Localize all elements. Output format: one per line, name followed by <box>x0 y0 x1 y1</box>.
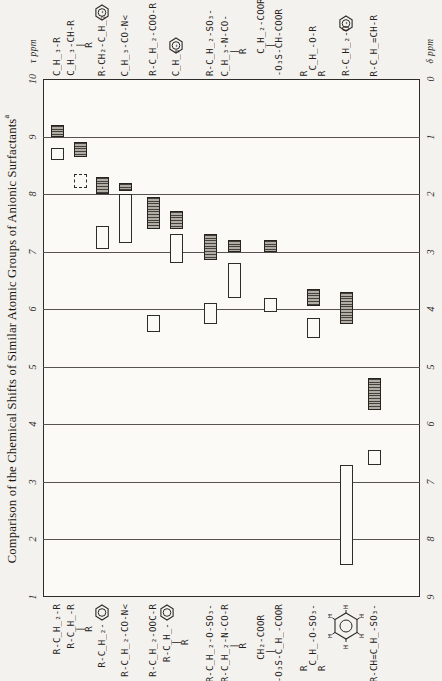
range-box-open-group-11 <box>340 465 353 566</box>
tau-axis-unit-label: τ ppm <box>28 39 38 63</box>
gridline-tau-2 <box>43 539 420 540</box>
top-formula-group-4: C̲H̲₃-CO-N< <box>121 15 130 76</box>
range-box-open-group-5 <box>147 315 160 332</box>
gridline-tau-6 <box>43 309 420 310</box>
delta-axis-unit-label: δ ppm <box>425 38 435 63</box>
gridline-tau-9 <box>43 137 420 138</box>
tau-tick-label-7: 7 <box>27 249 38 254</box>
range-box-hatched-group-6 <box>170 211 183 228</box>
svg-text:H: H <box>328 634 334 638</box>
range-box-hatched-group-7 <box>204 234 217 260</box>
top-formula-group-2: C̲H̲₃-CH-R | R <box>67 20 94 76</box>
top-formula-group-12: R-C̲H̲=CH-R <box>370 15 379 76</box>
delta-tick-label-6: 6 <box>425 422 436 427</box>
range-box-hatched-group-10 <box>307 289 320 306</box>
benzene-ring-icon-bottom-3 <box>94 604 110 621</box>
range-box-hatched-group-8 <box>228 240 241 252</box>
range-box-hatched-group-9 <box>264 240 277 252</box>
benzene-ring-icon-top-6 <box>168 37 184 54</box>
range-box-hatched-group-4 <box>119 183 132 192</box>
gridline-tau-4 <box>43 424 420 425</box>
gridline-tau-5 <box>43 367 420 368</box>
top-formula-group-5: R-C̲H̲₂-COO-R <box>149 3 158 76</box>
benzene-ring-icon-bottom-6 <box>159 604 175 621</box>
tau-tick-label-1: 1 <box>27 595 38 600</box>
benzene-ring-icon-top-3 <box>94 4 110 21</box>
range-box-hatched-group-12 <box>368 378 381 410</box>
svg-text:H: H <box>342 645 350 649</box>
delta-tick-label-2: 2 <box>425 192 436 197</box>
top-formula-group-1: C̲H̲₃-R <box>53 37 62 76</box>
range-box-open-group-3 <box>96 226 109 249</box>
range-box-hatched-group-5 <box>147 197 160 229</box>
top-formula-group-9: C̲H̲₂-COOR | -O₃S-CH-COOR <box>257 0 284 76</box>
delta-tick-label-4: 4 <box>425 307 436 312</box>
range-box-hatched-group-1 <box>51 125 64 137</box>
range-box-open-group-9 <box>264 298 277 312</box>
chart-frame <box>43 79 420 597</box>
tau-tick-label-5: 5 <box>27 364 38 369</box>
range-box-open-group-7 <box>204 303 217 323</box>
top-formula-group-7: R-C̲H̲₂-SO₃- <box>206 9 215 76</box>
delta-tick-label-9: 9 <box>425 595 436 600</box>
delta-tick-label-7: 7 <box>425 479 436 484</box>
bottom-formula-group-8: R-C̲H̲₂-N-CO-R | R <box>221 604 248 681</box>
range-box-hatched-group-3 <box>96 177 109 194</box>
svg-text:H: H <box>342 605 350 609</box>
tau-tick-label-4: 4 <box>27 422 38 427</box>
svg-text:H: H <box>358 614 364 618</box>
svg-text:H: H <box>358 634 364 638</box>
gridline-tau-3 <box>43 482 420 483</box>
delta-tick-label-8: 8 <box>425 537 436 542</box>
top-formula-group-8: C̲H̲₃-N-CO- | R <box>221 15 248 76</box>
benzene-ring-icon-top-11 <box>338 15 354 32</box>
tau-tick-label-6: 6 <box>27 307 38 312</box>
bottom-formula-group-5: R-C̲H̲₂-OOC-R <box>149 604 158 677</box>
bottom-formula-group-10: R C̲H̲-O-SO₃- R <box>300 604 327 671</box>
gridline-tau-8 <box>43 194 420 195</box>
delta-tick-label-0: 0 <box>425 77 436 82</box>
bottom-formula-group-12: R-CH=C̲H̲-SO₃- <box>370 604 379 681</box>
range-box-open-group-6 <box>170 234 183 263</box>
delta-tick-label-3: 3 <box>425 249 436 254</box>
tau-tick-label-3: 3 <box>27 479 38 484</box>
tau-tick-label-9: 9 <box>27 134 38 139</box>
top-formula-group-10: R C̲H̲-O-R R <box>300 26 327 76</box>
bottom-formula-group-4: R-C̲H̲₂-CO-N< <box>121 604 130 677</box>
range-box-open-group-12 <box>368 450 381 464</box>
range-box-open-group-10 <box>307 318 320 338</box>
range-box-hatched-group-11 <box>340 292 353 324</box>
range-box-open-group-2 <box>74 174 87 188</box>
figure-title: Comparison of the Chemical Shifts of Sim… <box>2 115 20 563</box>
delta-tick-label-1: 1 <box>425 134 436 139</box>
range-box-open-group-8 <box>228 263 241 298</box>
bottom-formula-group-7: R-C̲H̲₂-O-SO₃- <box>206 604 215 681</box>
gridline-tau-7 <box>43 252 420 253</box>
scanned-figure-page: Comparison of the Chemical Shifts of Sim… <box>0 0 442 681</box>
bottom-formula-group-3: R-C̲H̲₂- <box>98 623 107 668</box>
bottom-formula-group-9: CH₂-COOR | -O₃S-C̲H̲-COOR <box>257 604 284 681</box>
tau-tick-label-2: 2 <box>27 537 38 542</box>
tau-tick-label-10: 10 <box>27 74 38 84</box>
delta-tick-label-5: 5 <box>425 364 436 369</box>
tau-tick-label-8: 8 <box>27 192 38 197</box>
bottom-formula-group-2: R-C̲H̲-R | R <box>67 604 94 649</box>
bottom-formula-group-6: R-C̲H̲- | R <box>163 623 190 662</box>
figure-title-footnote-mark: a <box>2 115 11 119</box>
svg-text:H: H <box>328 614 334 618</box>
bottom-formula-group-1: R-C̲H̲₂-R <box>53 604 62 654</box>
range-box-hatched-group-2 <box>74 142 87 156</box>
range-box-open-group-1 <box>51 148 64 160</box>
figure-title-text: Comparison of the Chemical Shifts of Sim… <box>5 119 19 564</box>
aromatic-h-ring-icon-bottom-11: HHHHHH <box>328 604 364 652</box>
range-box-open-group-4 <box>119 194 132 243</box>
